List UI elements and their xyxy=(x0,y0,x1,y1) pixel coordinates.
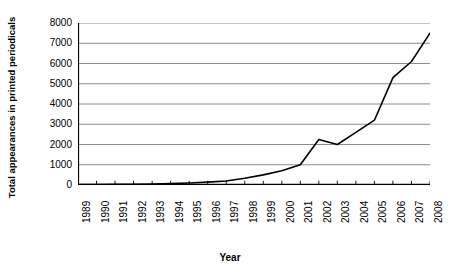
data-line-series xyxy=(78,33,430,184)
x-tick-label: 1989 xyxy=(82,201,92,223)
y-axis-title-container: Total appearances in printed periodicals xyxy=(2,0,22,215)
y-axis-tick-labels: 010002000300040005000600070008000 xyxy=(24,0,72,278)
x-tick-label: 1996 xyxy=(212,201,222,223)
y-tick-label: 3000 xyxy=(28,119,72,129)
y-tick-label: 2000 xyxy=(28,140,72,150)
x-tick-label: 2001 xyxy=(304,201,314,223)
x-tick-label: 1998 xyxy=(249,201,259,223)
y-tick-label: 5000 xyxy=(28,79,72,89)
x-tick-label: 1995 xyxy=(193,201,203,223)
y-tick-label: 7000 xyxy=(28,38,72,48)
x-tick-label: 1992 xyxy=(138,201,148,223)
x-axis-title-container: Year xyxy=(0,252,450,263)
x-tick-label: 1999 xyxy=(267,201,277,223)
plot-area xyxy=(78,23,430,185)
y-axis-title: Total appearances in printed periodicals xyxy=(7,17,18,198)
x-tick-label: 1990 xyxy=(101,201,111,223)
x-tick-label: 1991 xyxy=(119,201,129,223)
x-tick-label: 2000 xyxy=(286,201,296,223)
y-tick-label: 8000 xyxy=(28,18,72,28)
x-tick-label: 2002 xyxy=(323,201,333,223)
x-axis-title: Year xyxy=(219,252,240,263)
y-tick-label: 1000 xyxy=(28,160,72,170)
x-tick-label: 1997 xyxy=(230,201,240,223)
plot-svg xyxy=(78,23,430,185)
x-tick-label: 2007 xyxy=(415,201,425,223)
x-tick-label: 2005 xyxy=(378,201,388,223)
y-tick-label: 4000 xyxy=(28,99,72,109)
x-tick-label: 1993 xyxy=(156,201,166,223)
x-tick-label: 1994 xyxy=(175,201,185,223)
y-tick-label: 6000 xyxy=(28,59,72,69)
line-chart: Total appearances in printed periodicals… xyxy=(0,0,450,278)
x-tick-label: 2006 xyxy=(397,201,407,223)
gridlines xyxy=(78,23,430,165)
y-tick-label: 0 xyxy=(28,180,72,190)
x-tick-label: 2004 xyxy=(360,201,370,223)
x-tick-label: 2008 xyxy=(434,201,444,223)
x-tick-label: 2003 xyxy=(341,201,351,223)
